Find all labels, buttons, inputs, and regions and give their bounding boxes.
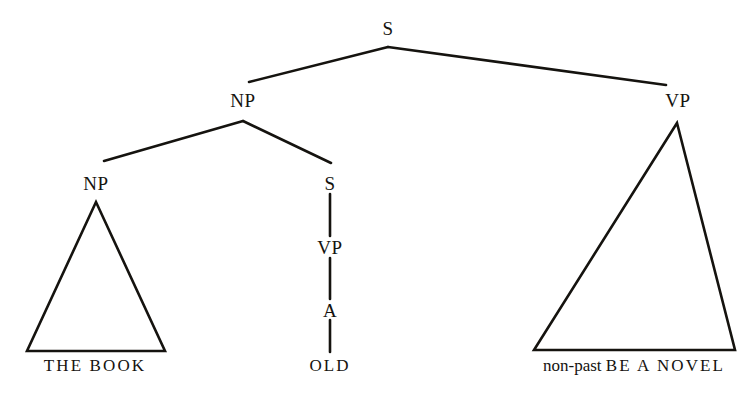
syntax-tree-diagram: SNPVPNPSVPA THE BOOKOLDnon-past BE A NOV…: [0, 0, 756, 405]
triangle-group: [27, 123, 735, 351]
branch-np-to-s: [243, 121, 331, 163]
terminal-old: OLD: [309, 357, 350, 375]
branch-lines-group: [104, 47, 666, 352]
node-label-vp-embedded: VP: [317, 238, 342, 257]
triangle-vp-predicate: [534, 123, 735, 350]
node-label-np-subject: NP: [230, 91, 255, 110]
node-label-s-root: S: [382, 19, 393, 38]
node-label-np-inner: NP: [83, 174, 108, 193]
node-label-s-embedded: S: [324, 174, 335, 193]
branch-np-to-np: [104, 121, 243, 161]
triangle-np-the-book: [27, 202, 165, 351]
branch-s-to-np: [249, 47, 388, 82]
branch-s-to-vp: [388, 47, 666, 85]
terminal-non-past-be-a-novel-caps-text: BE A NOVEL: [606, 356, 725, 375]
terminal-non-past-be-a-novel: non-past BE A NOVEL: [543, 357, 725, 375]
node-label-vp-main: VP: [665, 91, 690, 110]
tree-lines-svg: [0, 0, 756, 405]
terminal-the-book: THE BOOK: [44, 357, 146, 375]
terminal-non-past-be-a-novel-lower-text: non-past: [543, 356, 606, 375]
node-label-a-adjective: A: [323, 301, 337, 320]
